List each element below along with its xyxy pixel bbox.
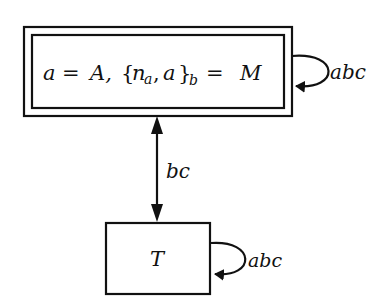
state-2-self-loop: abc <box>211 243 282 274</box>
arrowhead-down-icon <box>151 204 163 222</box>
self-loop-arrow-2 <box>211 243 245 274</box>
state-2-label: T <box>150 247 166 271</box>
self-loop-label-2: abc <box>248 249 282 271</box>
self-loop-arrow-1 <box>292 56 329 87</box>
state-1-self-loop: abc <box>292 56 366 87</box>
state-node-1: a = A, { n a , a } b = M <box>24 27 292 116</box>
self-loop-label-1: abc <box>330 60 366 84</box>
edge-state1-state2: bc <box>151 116 190 222</box>
state-1-label: a = A, { n a , a } b = M <box>43 61 262 90</box>
edge-label: bc <box>166 159 190 183</box>
state-diagram: a = A, { n a , a } b = M abc bc T abc <box>0 0 387 307</box>
state-node-2: T <box>106 223 210 294</box>
arrowhead-up-icon <box>151 116 163 134</box>
